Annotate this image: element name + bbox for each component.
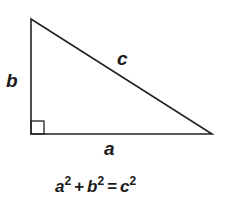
eq-c-exp: 2 [130,174,137,188]
label-b: b [6,70,18,91]
eq-plus: + [74,177,84,196]
label-c: c [117,48,128,69]
eq-a-exp: 2 [64,174,71,188]
eq-equals: = [107,177,117,196]
pythagorean-diagram: b c a a2+b2=c2 [0,0,227,204]
right-angle-marker [31,121,44,134]
equation: a2+b2=c2 [55,174,137,196]
right-triangle [31,19,212,134]
eq-b-exp: 2 [97,174,104,188]
eq-a: a [55,177,64,196]
label-a: a [104,138,115,159]
eq-b: b [87,177,97,196]
